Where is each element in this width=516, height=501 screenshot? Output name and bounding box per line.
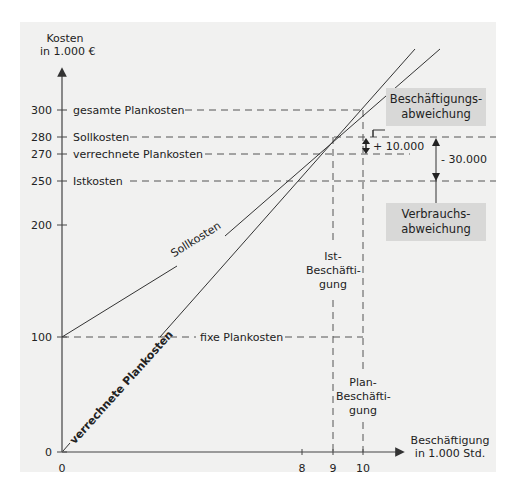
x-tick-10: 10 — [353, 462, 373, 475]
ist-beschaeftigung-label: Ist- Beschäfti- gung — [306, 250, 360, 292]
ref-label-gesamte-plankosten: gesamte Plankosten — [73, 104, 184, 117]
x-axis-label-line2: in 1.000 Std. — [408, 447, 492, 460]
box-b-l2: abweichung — [386, 107, 486, 122]
x-tick-9: 9 — [323, 462, 343, 475]
bracket — [373, 130, 385, 137]
beschaeftigungsabweichung-box: Beschäftigungs- abweichung — [386, 88, 486, 126]
verrechnete-plankosten-line — [63, 443, 70, 451]
box-b-l1: Beschäftigungs- — [386, 92, 486, 107]
y-axis-label-line1: Kosten — [40, 32, 90, 45]
plan-l1: Plan- — [336, 376, 390, 390]
delta-plus-10000: + 10.000 — [373, 140, 424, 153]
y-tick-100: 100 — [22, 331, 52, 344]
y-axis-label: Kosten in 1.000 € — [40, 32, 90, 58]
box-v-l2: abweichung — [386, 222, 486, 237]
y-tick-0: 0 — [22, 446, 52, 459]
x-axis-label: Beschäftigung in 1.000 Std. — [408, 434, 492, 460]
y-tick-300: 300 — [22, 104, 52, 117]
x-axis-label-line1: Beschäftigung — [408, 434, 492, 447]
ref-label-fixe-plankosten: fixe Plankosten — [200, 331, 283, 344]
ist-l1: Ist- — [306, 250, 360, 264]
x-tick-8: 8 — [292, 462, 312, 475]
ref-label-sollkosten: Sollkosten — [73, 131, 129, 144]
ref-label-verrechnete-plankosten: verrechnete Plankosten — [73, 148, 203, 161]
ref-label-istkosten: Istkosten — [73, 175, 123, 188]
ist-l3: gung — [306, 278, 360, 292]
box-v-l1: Verbrauchs- — [386, 207, 486, 222]
x-tick-0: 0 — [52, 462, 72, 475]
y-tick-250: 250 — [22, 175, 52, 188]
y-tick-280: 280 — [22, 131, 52, 144]
y-tick-200: 200 — [22, 219, 52, 232]
sollkosten-line — [62, 266, 177, 337]
verbrauchsabweichung-box: Verbrauchs- abweichung — [386, 203, 486, 241]
ist-l2: Beschäfti- — [306, 264, 360, 278]
y-tick-270: 270 — [22, 148, 52, 161]
delta-minus-30000: - 30.000 — [441, 153, 487, 166]
plan-beschaeftigung-label: Plan- Beschäfti- gung — [336, 376, 390, 418]
plan-l3: gung — [336, 404, 390, 418]
plan-l2: Beschäfti- — [336, 390, 390, 404]
y-axis-label-line2: in 1.000 € — [40, 45, 90, 58]
